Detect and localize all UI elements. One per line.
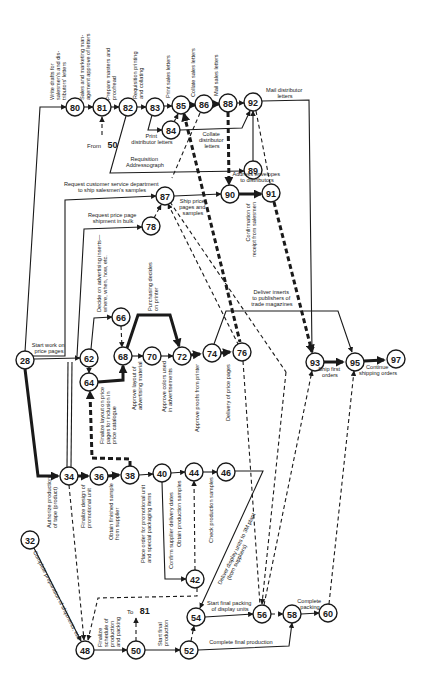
node-87: 87 [156, 187, 174, 205]
node-88: 88 [219, 94, 237, 112]
node-number: 91 [266, 189, 276, 199]
edge-72-74 [191, 354, 200, 355]
node-number: 48 [80, 646, 90, 656]
node-number: 56 [257, 610, 267, 620]
edge-28-80 [25, 107, 66, 352]
label-address-envelopes: Address envelopes to distributors [232, 171, 281, 183]
node-52: 52 [180, 641, 198, 659]
node-44: 44 [185, 463, 203, 481]
node-number: 58 [287, 610, 297, 620]
node-number: 74 [207, 349, 217, 359]
edge-78-87 [154, 205, 161, 218]
label-delivery-price-pages: Delivery of price pages [225, 364, 231, 421]
node-number: 85 [176, 101, 186, 111]
edge-84-92 [180, 111, 250, 130]
node-86: 86 [195, 95, 213, 113]
label-place-order: Place order for promotional unit and spe… [140, 483, 152, 563]
node-90: 90 [221, 185, 239, 203]
label-collate-sales: Collate sales letters [190, 48, 196, 97]
node-number: 95 [350, 358, 360, 368]
edge-74-76 [221, 352, 230, 353]
node-number: 62 [84, 354, 94, 364]
edge-40-44 [171, 472, 185, 473]
node-82: 82 [119, 98, 137, 116]
label-requisition-addressograph: Requisition Addressograph [126, 156, 164, 168]
node-number: 81 [97, 103, 107, 113]
node-number: 52 [184, 646, 194, 656]
edge-34-62-line [67, 362, 68, 467]
edge-40-42 [162, 482, 186, 579]
label-request-customer-service: Request customer service department to s… [64, 181, 160, 193]
node-number: 42 [190, 575, 200, 585]
label-start-work-price: Start work on price pages [32, 342, 67, 354]
node-74: 74 [203, 344, 221, 362]
node-92: 92 [244, 93, 262, 111]
node-number: 46 [221, 468, 231, 478]
edge-52-58 [198, 623, 292, 650]
node-60: 60 [319, 604, 337, 622]
node-66: 66 [112, 308, 130, 326]
label-prepare-masters: Prepare masters and proofread [105, 46, 117, 100]
labels: Write drafts for salesmen's and dis- tri… [32, 33, 398, 647]
node-number: 82 [123, 103, 133, 113]
label-collate-distributor: Collate distributor letters [199, 131, 225, 149]
node-number: 80 [70, 103, 80, 113]
label-to-81: To 81 [127, 600, 150, 617]
label-finalize-schedule: Finalize schedule of production and pack… [97, 617, 121, 647]
node-number: 32 [25, 536, 35, 546]
label-authorize-production: Authorize production of tape (product) [46, 475, 58, 528]
label-deliver-inserts: Deliver inserts to publishers of trade m… [251, 289, 293, 307]
node-number: 97 [391, 355, 401, 365]
node-91: 91 [262, 184, 280, 202]
edge-28-34 [25, 369, 58, 476]
label-finalize-design: Finalize design of promotional unit [80, 483, 92, 528]
node-38: 38 [121, 466, 139, 484]
edge-34-62-line2 [71, 362, 72, 467]
label-approve-layout: Approve layout of advertising material [131, 361, 143, 410]
edge-87-90 [174, 194, 221, 196]
node-46: 46 [217, 463, 235, 481]
node-54: 54 [187, 608, 205, 626]
node-number: 40 [157, 469, 167, 479]
node-95: 95 [346, 353, 364, 371]
label-print-sales: Print sales letters [165, 55, 171, 98]
node-number: 70 [147, 352, 157, 362]
node-number: 76 [237, 348, 247, 358]
edge-83-84 [148, 115, 162, 130]
node-number: 38 [125, 471, 135, 481]
edge-64-68 [98, 366, 123, 382]
node-64: 64 [80, 373, 98, 391]
label-complete-packing: Complete packing [297, 598, 323, 610]
edge-88-90 [228, 112, 229, 184]
node-58: 58 [283, 605, 301, 623]
label-ship-first: Ship first orders [318, 366, 341, 378]
label-start-final-packing: Start final packing of display units [207, 600, 253, 612]
edge-36-38 [108, 475, 119, 476]
label-start-final-production: Start final production [157, 620, 169, 646]
edge-38-40 [139, 474, 153, 475]
edge-54-56 [205, 614, 253, 617]
node-number: 90 [225, 190, 235, 200]
label-confirmation-receipt: Confirmation of receipt from salesmen [245, 202, 257, 257]
node-28: 28 [16, 351, 34, 369]
edge-95-97 [364, 360, 384, 361]
label-from-50: From 50 [87, 134, 117, 151]
label-obtain-production-samples: Obtain production samples [176, 480, 182, 547]
node-50: 50 [127, 641, 145, 659]
label-mail-sales: Mail sales letters [213, 54, 219, 96]
node-70: 70 [143, 347, 161, 365]
node-56: 56 [253, 605, 271, 623]
node-number: 92 [248, 98, 258, 108]
node-32: 32 [21, 531, 39, 549]
node-number: 86 [199, 100, 209, 110]
node-number: 83 [150, 103, 160, 113]
node-34: 34 [60, 467, 78, 485]
edge-76-87 [168, 204, 238, 344]
nodes: 8081828384858688928987909178662862646870… [16, 93, 405, 659]
edge-58-60 [301, 613, 319, 614]
label-complete-final-production: Complete final production [209, 639, 272, 645]
node-85: 85 [172, 96, 190, 114]
edge-68-72 [127, 315, 179, 348]
label-approve-colors: Approve colors used in advertisements [161, 359, 173, 412]
node-number: 54 [191, 613, 201, 623]
